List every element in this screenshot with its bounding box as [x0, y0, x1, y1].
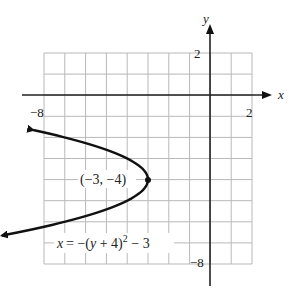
vertex-label: (−3, −4) — [80, 172, 126, 188]
equation-label-body: = −(y + 4)2 − 3 — [66, 233, 150, 252]
vertex-dot — [145, 177, 151, 183]
x-axis-label: x — [277, 87, 284, 102]
equation-label: x — [56, 236, 64, 251]
y-tick-max-label: 2 — [194, 46, 201, 61]
grid — [44, 53, 252, 264]
y-axis-label: y — [201, 11, 209, 26]
graph: x y −8 2 2 −8 (−3, −4) x = −(y + 4)2 − 3 — [0, 0, 296, 298]
y-tick-min-label: −8 — [190, 255, 204, 270]
x-tick-min-label: −8 — [30, 105, 44, 120]
x-axis-arrow-icon — [262, 91, 272, 99]
x-tick-max-label: 2 — [246, 105, 253, 120]
